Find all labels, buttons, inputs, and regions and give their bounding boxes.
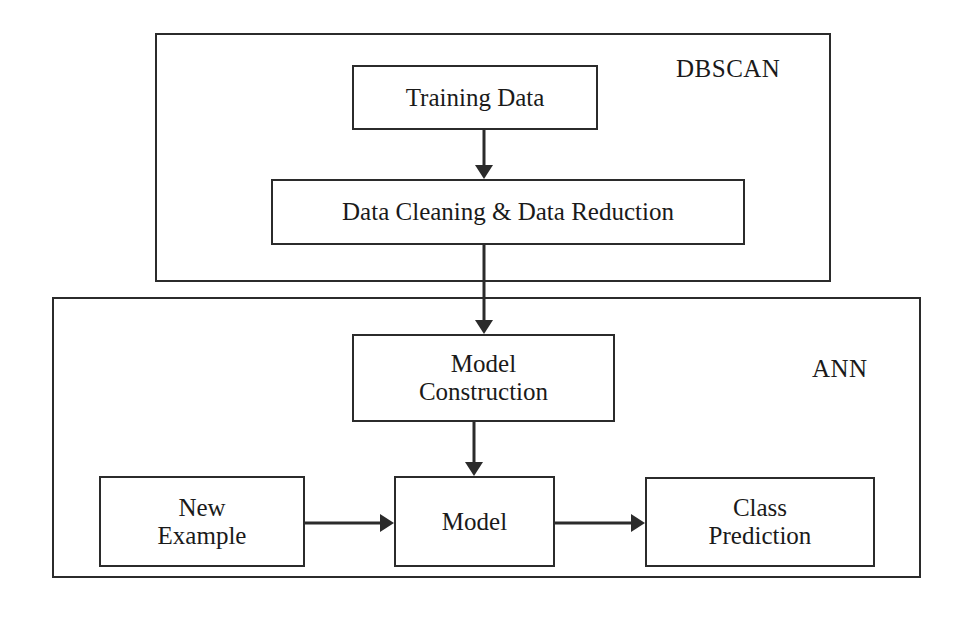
node-class-prediction: Class Prediction — [645, 477, 875, 567]
arrow-head — [475, 165, 493, 179]
node-label-new-example: New Example — [152, 494, 253, 550]
node-label-model-construction: Model Construction — [413, 350, 554, 406]
node-label-data-cleaning: Data Cleaning & Data Reduction — [336, 198, 680, 226]
arrow-model-to-prediction — [539, 507, 661, 539]
arrow-training-to-cleaning — [468, 114, 500, 195]
arrow-head — [465, 462, 483, 476]
arrow-example-to-model — [289, 507, 410, 539]
node-label-model: Model — [436, 508, 513, 536]
node-label-class-prediction: Class Prediction — [703, 494, 818, 550]
arrow-cleaning-to-construction — [468, 229, 500, 350]
diagram-canvas: DBSCANANN Training DataData Cleaning & D… — [0, 0, 968, 625]
arrow-head — [380, 514, 394, 532]
node-data-cleaning: Data Cleaning & Data Reduction — [271, 179, 745, 245]
group-label-ann: ANN — [812, 356, 868, 381]
node-new-example: New Example — [99, 476, 305, 567]
node-label-training-data: Training Data — [400, 84, 551, 112]
arrow-head — [475, 320, 493, 334]
group-label-dbscan: DBSCAN — [676, 56, 780, 81]
arrow-construction-to-model — [458, 406, 490, 492]
arrow-head — [631, 514, 645, 532]
